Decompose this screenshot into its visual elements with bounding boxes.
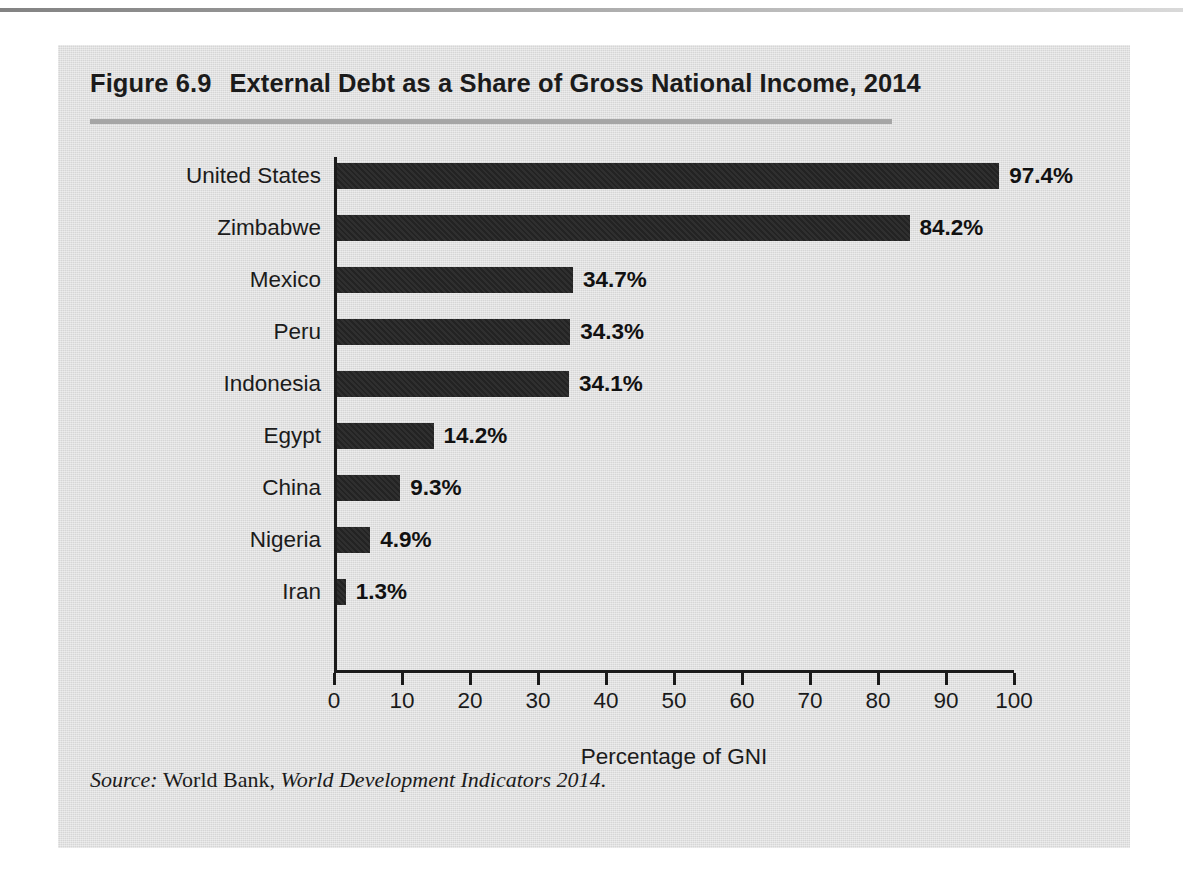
- bar-row: Zimbabwe84.2%: [90, 215, 1100, 267]
- bar-container: 14.2%: [337, 423, 1100, 449]
- bar-value-label: 1.3%: [356, 579, 407, 605]
- source-note: Source: World Bank, World Development In…: [90, 767, 606, 793]
- page-top-rule: [0, 8, 1183, 12]
- tick-mark: [673, 673, 676, 685]
- bar-container: 34.7%: [337, 267, 1100, 293]
- tick-mark: [469, 673, 472, 685]
- bar-container: 34.1%: [337, 371, 1100, 397]
- bar-container: 4.9%: [337, 527, 1100, 553]
- bar-value-label: 9.3%: [410, 475, 461, 501]
- bar-value-label: 84.2%: [920, 215, 984, 241]
- bar-container: 84.2%: [337, 215, 1100, 241]
- bar-container: 34.3%: [337, 319, 1100, 345]
- bar-container: 97.4%: [337, 163, 1100, 189]
- bar-value-label: 34.3%: [580, 319, 644, 345]
- figure-number: Figure 6.9: [90, 69, 211, 97]
- category-label: Mexico: [250, 267, 321, 293]
- tick-label: 20: [457, 688, 482, 714]
- bar-rows: United States97.4%Zimbabwe84.2%Mexico34.…: [90, 163, 1100, 631]
- bar-value-label: 34.1%: [579, 371, 643, 397]
- tick-mark: [537, 673, 540, 685]
- bar: [337, 267, 573, 293]
- title-divider-rule: [90, 119, 892, 124]
- bar-value-label: 34.7%: [583, 267, 647, 293]
- tick-label: 80: [865, 688, 890, 714]
- bar-container: 9.3%: [337, 475, 1100, 501]
- tick-label: 40: [593, 688, 618, 714]
- category-label: China: [262, 475, 321, 501]
- bar-row: Nigeria4.9%: [90, 527, 1100, 579]
- source-publisher: World Bank,: [163, 767, 275, 792]
- tick-mark: [945, 673, 948, 685]
- bar-value-label: 14.2%: [444, 423, 508, 449]
- tick-label: 60: [729, 688, 754, 714]
- category-label: Zimbabwe: [217, 215, 321, 241]
- bar-container: 1.3%: [337, 579, 1100, 605]
- figure-title: Figure 6.9External Debt as a Share of Gr…: [90, 69, 921, 98]
- tick-label: 30: [525, 688, 550, 714]
- tick-label: 10: [389, 688, 414, 714]
- x-axis-ticks: 0102030405060708090100: [334, 673, 1014, 733]
- bar: [337, 215, 910, 241]
- chart-plot-area: United States97.4%Zimbabwe84.2%Mexico34.…: [90, 150, 1100, 710]
- tick-mark: [741, 673, 744, 685]
- figure-panel: Figure 6.9External Debt as a Share of Gr…: [58, 45, 1130, 848]
- bar: [337, 163, 999, 189]
- tick-mark: [605, 673, 608, 685]
- bar: [337, 423, 434, 449]
- category-label: Egypt: [263, 423, 321, 449]
- bar-row: Iran1.3%: [90, 579, 1100, 631]
- bar-value-label: 97.4%: [1009, 163, 1073, 189]
- source-suffix: .: [600, 767, 606, 792]
- category-label: Peru: [273, 319, 321, 345]
- tick-mark: [333, 673, 336, 685]
- category-label: Nigeria: [250, 527, 321, 553]
- tick-label: 100: [995, 688, 1033, 714]
- bar-row: Indonesia34.1%: [90, 371, 1100, 423]
- bar-value-label: 4.9%: [380, 527, 431, 553]
- bar: [337, 475, 400, 501]
- bar-row: Mexico34.7%: [90, 267, 1100, 319]
- bar: [337, 319, 570, 345]
- tick-mark: [401, 673, 404, 685]
- tick-mark: [877, 673, 880, 685]
- tick-mark: [1013, 673, 1016, 685]
- bar-row: China9.3%: [90, 475, 1100, 527]
- bar-row: Peru34.3%: [90, 319, 1100, 371]
- source-publication: World Development Indicators 2014: [281, 767, 601, 792]
- tick-label: 50: [661, 688, 686, 714]
- tick-label: 0: [328, 688, 341, 714]
- bar-row: Egypt14.2%: [90, 423, 1100, 475]
- source-prefix: Source:: [90, 767, 158, 792]
- tick-mark: [809, 673, 812, 685]
- bar: [337, 371, 569, 397]
- bar: [337, 527, 370, 553]
- figure-title-text: External Debt as a Share of Gross Nation…: [229, 69, 920, 97]
- category-label: Indonesia: [223, 371, 321, 397]
- tick-label: 90: [933, 688, 958, 714]
- bar-row: United States97.4%: [90, 163, 1100, 215]
- tick-label: 70: [797, 688, 822, 714]
- category-label: Iran: [282, 579, 321, 605]
- bar: [337, 579, 346, 605]
- category-label: United States: [186, 163, 321, 189]
